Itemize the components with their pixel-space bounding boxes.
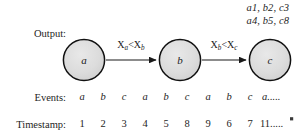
timestamp-cell-tail: 11..... xyxy=(260,118,297,129)
timestamp-cell: 6 xyxy=(219,118,239,129)
edge-label-a-b-mid: <X xyxy=(128,39,142,50)
timestamp-cell: 9 xyxy=(198,118,218,129)
edge-label-b-c-sub2: c xyxy=(234,44,238,52)
timestamp-cell: 7 xyxy=(240,118,260,129)
timestamp-cell: 4 xyxy=(135,118,155,129)
events-sequence: a b c a b c a b c a..... xyxy=(68,91,297,105)
event-cell: a xyxy=(198,91,218,102)
edge-label-b-c: Xb<Xc xyxy=(211,39,239,52)
event-cell: c xyxy=(177,91,197,102)
event-cell: a xyxy=(135,91,155,102)
graph-node-c-label: c xyxy=(268,54,273,66)
edge-b-to-c: Xb<Xc xyxy=(202,39,246,60)
timestamp-cell: 2 xyxy=(93,118,113,129)
event-cell: a xyxy=(72,91,92,102)
graph-node-c[interactable]: c xyxy=(249,39,290,80)
timestamp-cell: 8 xyxy=(177,118,197,129)
graph-node-b[interactable]: b xyxy=(159,39,200,80)
event-cell: c xyxy=(240,91,260,102)
graph-node-a-label: a xyxy=(81,54,87,66)
timestamp-cell: 5 xyxy=(156,118,176,129)
timestamp-sequence: 1 2 3 4 5 8 9 6 7 11..... xyxy=(68,118,297,132)
timestamp-cell: 1 xyxy=(72,118,92,129)
edge-label-a-b-sub2: b xyxy=(141,44,145,52)
graph-node-a[interactable]: a xyxy=(63,39,104,80)
timestamp-row-label: Timestamp: xyxy=(0,119,66,130)
graph-node-b-label: b xyxy=(177,54,183,66)
event-cell: b xyxy=(219,91,239,102)
timeline-axis xyxy=(66,108,294,114)
event-cell-tail: a..... xyxy=(262,91,297,102)
event-cell: b xyxy=(156,91,176,102)
edge-a-to-b: Xa<Xb xyxy=(106,39,156,60)
event-cell: b xyxy=(93,91,113,102)
edge-label-a-b: Xa<Xb xyxy=(117,39,145,52)
figure-canvas: a1, b2, c3 a4, b5, c8 Output: xyxy=(0,0,297,139)
edge-label-b-c-mid: <X xyxy=(221,39,235,50)
timestamp-cell: 3 xyxy=(114,118,134,129)
events-row-label: Events: xyxy=(0,92,66,103)
event-cell: c xyxy=(114,91,134,102)
